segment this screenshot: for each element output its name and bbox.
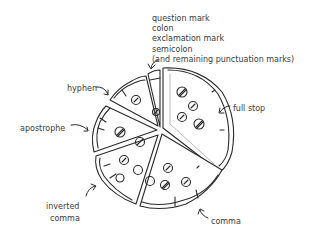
arrow-apostrophe-icon <box>71 125 88 131</box>
arrow-to-top-slice-icon <box>148 60 158 69</box>
pizza-illustration <box>0 0 320 241</box>
arrow-hyphen-icon <box>96 87 108 95</box>
arrow-comma-icon <box>198 209 208 218</box>
arrow-inverted-comma-icon <box>86 184 96 196</box>
